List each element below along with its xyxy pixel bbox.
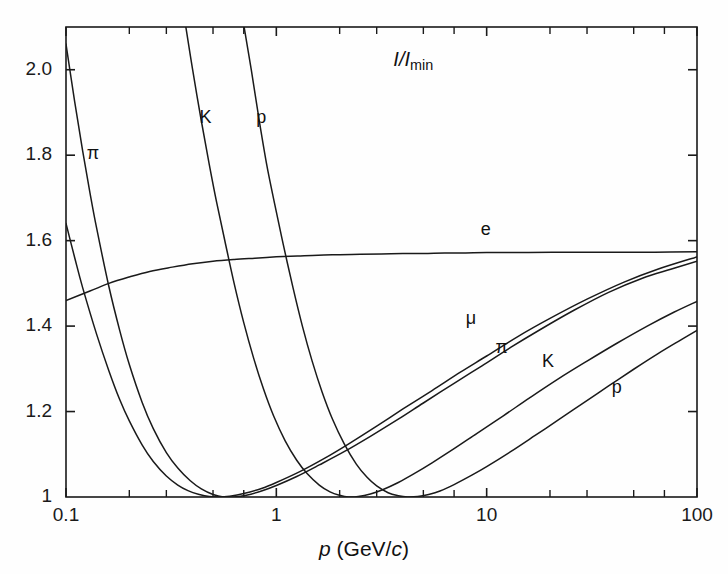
x-title-unit-open: (GeV/ [331, 537, 392, 560]
curve-label-muon: μ [466, 308, 476, 329]
curve-label-kaon: K [542, 351, 554, 372]
curve-label-proton: p [612, 377, 622, 398]
x-title-unit-close: ) [402, 537, 409, 560]
y-tick-label: 1.4 [0, 314, 52, 336]
x-tick-label: 1 [236, 504, 316, 526]
title-subscript: min [410, 57, 433, 73]
y-tick-label: 1.6 [0, 229, 52, 251]
x-tick-label: 0.1 [26, 504, 106, 526]
curve-label-pion: π [495, 337, 507, 358]
x-tick-label: 100 [657, 504, 728, 526]
y-tick-label: 1.2 [0, 400, 52, 422]
curve-label-electron: e [481, 219, 491, 240]
curve-label-pion-left: π [87, 143, 99, 164]
y-tick-label: 1.8 [0, 143, 52, 165]
x-title-unit-c: c [391, 537, 402, 560]
ionization-loss-chart: 1 1.2 1.4 1.6 1.8 2.0 0.1 1 10 100 I/Imi… [0, 0, 728, 574]
y-tick-label: 2.0 [0, 58, 52, 80]
chart-plot-area [0, 0, 728, 574]
curve-label-proton-left: p [256, 107, 266, 128]
x-axis-title: p (GeV/c) [0, 537, 728, 561]
x-title-symbol: p [319, 537, 331, 560]
plot-title: I/Imin [393, 48, 433, 73]
curve-label-kaon-left: K [199, 107, 211, 128]
x-tick-label: 10 [447, 504, 527, 526]
